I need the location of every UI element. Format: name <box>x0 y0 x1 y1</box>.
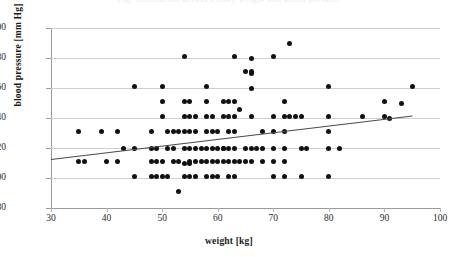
data-point <box>171 129 176 134</box>
data-point <box>282 159 287 164</box>
data-point <box>182 161 187 166</box>
data-point <box>226 129 231 134</box>
data-point <box>204 159 209 164</box>
data-point <box>199 159 204 164</box>
data-point <box>187 129 192 134</box>
x-tick-label: 40 <box>87 213 127 223</box>
data-point <box>210 129 215 134</box>
data-point <box>221 99 226 104</box>
data-point <box>76 159 81 164</box>
data-point <box>249 159 254 164</box>
x-tick-label: 60 <box>198 213 238 223</box>
trendline <box>51 115 412 159</box>
data-point <box>282 146 287 151</box>
data-point <box>237 107 242 112</box>
y-tick-mark <box>46 148 51 149</box>
data-point <box>287 41 292 46</box>
data-point <box>260 146 265 151</box>
data-point <box>232 129 237 134</box>
data-point <box>299 174 304 179</box>
data-point <box>232 114 237 119</box>
data-point <box>165 129 170 134</box>
data-point <box>282 114 287 119</box>
data-point <box>182 146 187 151</box>
y-gridline <box>51 178 440 179</box>
y-tick-label: 160 <box>0 82 6 92</box>
cut-off-caption-text: Fig. Correlation between body weight and… <box>0 0 458 4</box>
data-point <box>232 54 237 59</box>
y-tick-label: 200 <box>0 22 6 32</box>
data-point <box>271 159 276 164</box>
data-point <box>293 114 298 119</box>
data-point <box>187 146 192 151</box>
plot-area <box>51 28 440 208</box>
data-point <box>204 146 209 151</box>
data-point <box>299 146 304 151</box>
data-point <box>149 174 154 179</box>
x-tick-label: 100 <box>420 213 458 223</box>
data-point <box>115 159 120 164</box>
data-point <box>282 99 287 104</box>
data-point <box>215 129 220 134</box>
x-tick-mark <box>440 208 441 212</box>
x-tick-mark <box>273 208 274 212</box>
x-tick-mark <box>51 208 52 212</box>
x-tick-label: 80 <box>309 213 349 223</box>
data-point <box>237 159 242 164</box>
data-point <box>76 129 81 134</box>
data-point <box>210 174 215 179</box>
y-tick-label: 140 <box>0 112 6 122</box>
data-point <box>326 146 331 151</box>
data-point <box>243 146 248 151</box>
x-tick-label: 70 <box>253 213 293 223</box>
data-point <box>193 159 198 164</box>
data-point <box>249 56 254 61</box>
data-point <box>160 159 165 164</box>
data-point <box>154 159 159 164</box>
data-point <box>171 146 176 151</box>
data-point <box>193 114 198 119</box>
data-point <box>182 174 187 179</box>
data-point <box>204 129 209 134</box>
data-point <box>243 159 248 164</box>
y-gridline <box>51 28 440 29</box>
data-point <box>132 174 137 179</box>
x-tick-mark <box>384 208 385 212</box>
data-point <box>282 174 287 179</box>
y-tick-mark <box>46 88 51 89</box>
y-tick-label: 180 <box>0 52 6 62</box>
y-tick-label: 100 <box>0 172 6 182</box>
y-tick-label: 80 <box>0 202 6 212</box>
data-point <box>410 84 415 89</box>
y-tick-label: 120 <box>0 142 6 152</box>
data-point <box>199 146 204 151</box>
data-point <box>232 159 237 164</box>
data-point <box>337 146 342 151</box>
x-tick-label: 90 <box>364 213 404 223</box>
data-point <box>232 99 237 104</box>
data-point <box>271 174 276 179</box>
x-tick-label: 50 <box>142 213 182 223</box>
data-point <box>99 129 104 134</box>
data-point <box>204 99 209 104</box>
data-point <box>193 174 198 179</box>
y-tick-mark <box>46 178 51 179</box>
x-axis-title: weight [kg] <box>0 236 458 246</box>
data-point <box>176 129 181 134</box>
data-point <box>249 114 254 119</box>
data-point <box>243 69 248 74</box>
data-point <box>360 114 365 119</box>
data-point <box>271 54 276 59</box>
data-point <box>260 159 265 164</box>
data-point <box>104 159 109 164</box>
x-tick-mark <box>162 208 163 212</box>
data-point <box>299 114 304 119</box>
data-point <box>226 159 231 164</box>
data-point <box>249 146 254 151</box>
data-point <box>82 159 87 164</box>
data-point <box>254 146 259 151</box>
data-point <box>182 99 187 104</box>
data-point <box>160 99 165 104</box>
x-tick-mark <box>218 208 219 212</box>
x-tick-mark <box>329 208 330 212</box>
